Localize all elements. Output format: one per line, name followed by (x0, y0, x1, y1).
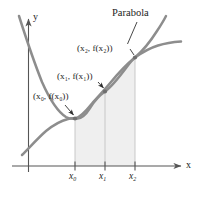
point-marker-x1 (103, 89, 107, 93)
point-marker-x2 (133, 55, 137, 59)
tick-label-x1: x1 (99, 172, 106, 182)
leader-line-point0 (65, 105, 74, 115)
leader-line-point1 (98, 82, 104, 88)
tick-label-x2-sub: 2 (133, 176, 136, 182)
y-axis-label: y (33, 12, 38, 22)
point-label-x1: (x₁, f(x₁)) (57, 72, 93, 81)
point-label-x2: (x₂, f(x₂)) (77, 44, 113, 53)
leader-line-parabola (128, 22, 138, 44)
point-label-x0: (x₀, f(x₀)) (33, 92, 69, 101)
point-marker-x0 (73, 116, 77, 120)
tick-label-x1-sub: 1 (103, 176, 106, 182)
parabola-annotation-label: Parabola (112, 8, 149, 19)
x-axis-label: x (186, 160, 191, 170)
tick-label-x0: x0 (69, 172, 76, 182)
figure-canvas (0, 0, 200, 197)
tick-label-x2: x2 (129, 172, 136, 182)
parabola-figure: Parabola (x₂, f(x₂)) (x₁, f(x₁)) (x₀, f(… (0, 0, 200, 197)
leader-line-point2 (130, 49, 134, 55)
tick-label-x0-sub: 0 (73, 176, 76, 182)
parabola-curve (19, 16, 166, 119)
